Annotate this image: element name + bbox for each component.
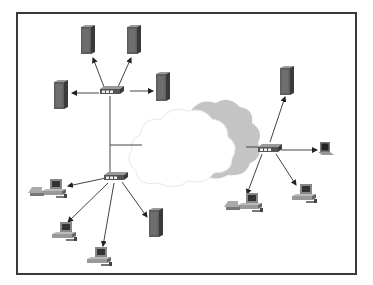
network-diagram <box>0 0 373 285</box>
laptop-icon <box>318 142 334 155</box>
server-icon <box>280 66 294 95</box>
workstation-icon <box>52 222 77 241</box>
server-icon <box>54 80 68 109</box>
workstation-icon <box>292 184 317 203</box>
server-icon <box>149 208 163 237</box>
hub-icon <box>258 144 282 152</box>
workstation-icon <box>224 193 263 212</box>
hub-icon <box>104 172 128 180</box>
network-cloud <box>129 100 260 187</box>
workstation-icon <box>28 179 67 198</box>
workstation-icon <box>87 247 112 266</box>
server-icon <box>127 25 141 54</box>
server-icon <box>81 25 95 54</box>
hub-icon <box>100 86 124 94</box>
server-icon <box>156 72 170 101</box>
